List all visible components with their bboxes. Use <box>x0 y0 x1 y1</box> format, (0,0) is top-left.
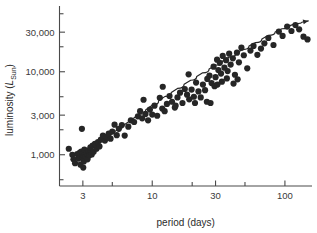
data-point <box>254 52 260 58</box>
data-point <box>114 132 120 138</box>
data-point <box>179 100 185 106</box>
data-points <box>66 22 311 171</box>
data-point <box>192 100 198 106</box>
data-point <box>140 97 146 103</box>
y-axis-title: luminosity (LSun) <box>4 64 17 136</box>
data-point <box>279 33 285 39</box>
data-point <box>195 88 201 94</box>
data-point <box>206 72 212 78</box>
data-point <box>162 108 168 114</box>
data-point <box>296 26 302 32</box>
curve-arrowhead <box>303 20 309 25</box>
data-point <box>154 113 160 119</box>
data-point <box>258 46 264 52</box>
x-axis-title: period (days) <box>157 217 215 228</box>
data-point <box>186 71 192 77</box>
data-point <box>212 74 218 80</box>
data-point <box>214 82 220 88</box>
x-tick-label: 10 <box>147 190 158 201</box>
data-point <box>145 117 151 123</box>
data-point <box>225 68 231 74</box>
data-point <box>66 146 72 152</box>
data-point <box>79 126 85 132</box>
data-point <box>202 87 208 93</box>
data-point <box>241 52 247 58</box>
data-point <box>218 71 224 77</box>
data-point <box>191 94 197 100</box>
data-point <box>198 94 204 100</box>
data-point <box>224 75 230 81</box>
data-point <box>244 65 250 71</box>
y-tick-label: 10,000 <box>25 66 54 77</box>
data-point <box>288 28 294 34</box>
chart-canvas: 1,0003,00010,00030,00031030100 period (d… <box>0 0 317 233</box>
data-point <box>122 133 128 139</box>
data-point <box>304 36 310 42</box>
y-tick-label: 30,000 <box>25 27 54 38</box>
data-point <box>261 40 267 46</box>
data-point <box>235 76 241 82</box>
data-point <box>173 103 179 109</box>
y-tick-label: 3,000 <box>31 110 55 121</box>
data-point <box>200 82 206 88</box>
data-point <box>270 42 276 48</box>
data-point <box>160 84 166 90</box>
x-tick-label: 100 <box>277 190 293 201</box>
x-tick-label: 30 <box>210 190 221 201</box>
data-point <box>207 100 213 106</box>
x-tick-label: 3 <box>80 190 85 201</box>
data-point <box>236 59 242 65</box>
data-point <box>80 164 86 170</box>
period-luminosity-chart: 1,0003,00010,00030,00031030100 period (d… <box>0 0 317 233</box>
y-tick-label: 1,000 <box>31 149 55 160</box>
data-point <box>189 86 195 92</box>
data-point <box>125 124 131 130</box>
data-point <box>228 61 234 67</box>
